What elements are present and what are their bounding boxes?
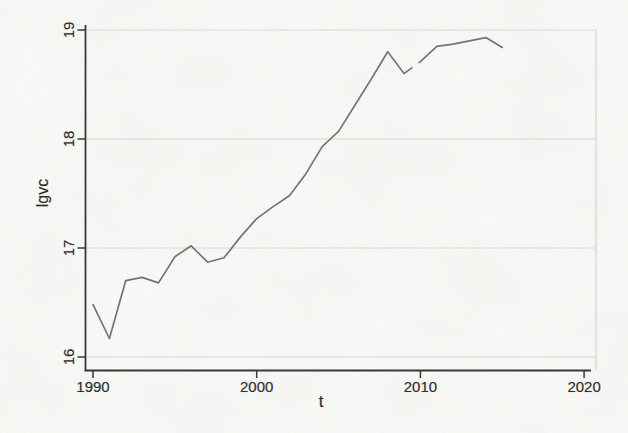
scanned-chart-page: 161718191990200020102020lgvct	[0, 0, 628, 433]
line-chart: 161718191990200020102020lgvct	[0, 0, 628, 433]
scan-grain-overlay	[0, 0, 628, 433]
